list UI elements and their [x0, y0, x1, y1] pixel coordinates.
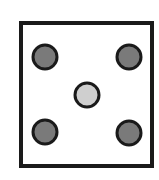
circle-bottom-right — [117, 121, 141, 145]
dice-diagram — [0, 0, 159, 180]
circle-center — [75, 83, 99, 107]
circle-top-left — [33, 45, 57, 69]
circle-top-right — [117, 45, 141, 69]
circle-bottom-left — [33, 120, 57, 144]
